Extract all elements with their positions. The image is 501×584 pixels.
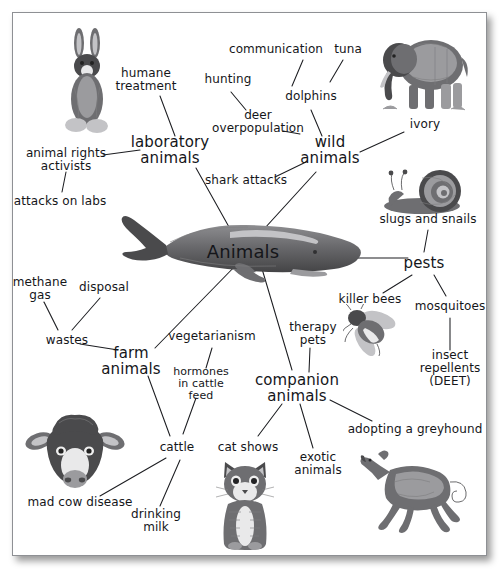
node-communication[interactable]: communication bbox=[229, 43, 323, 56]
edge-11 bbox=[360, 132, 404, 152]
node-therapy-pets[interactable]: therapy pets bbox=[289, 321, 336, 347]
edge-13 bbox=[424, 230, 428, 252]
edge-27 bbox=[309, 348, 310, 372]
node-pests[interactable]: pests bbox=[404, 255, 445, 271]
node-mosquitoes[interactable]: mosquitoes bbox=[415, 300, 486, 313]
node-insect-repellents[interactable]: insect repellents (DEET) bbox=[420, 349, 481, 388]
node-farm-animals[interactable]: farm animals bbox=[101, 345, 160, 377]
rabbit-picture bbox=[56, 27, 118, 141]
node-mad-cow-disease[interactable]: mad cow disease bbox=[27, 496, 132, 509]
edge-28 bbox=[258, 404, 282, 436]
node-adopting-a-greyhound[interactable]: adopting a greyhound bbox=[348, 423, 483, 436]
node-exotic-animals[interactable]: exotic animals bbox=[294, 451, 342, 477]
node-hunting[interactable]: hunting bbox=[205, 73, 252, 86]
node-wild-animals[interactable]: wild animals bbox=[300, 134, 359, 166]
edge-15 bbox=[434, 275, 446, 296]
node-ivory[interactable]: ivory bbox=[410, 118, 440, 131]
greyhound-picture bbox=[360, 448, 470, 534]
node-cat-shows[interactable]: cat shows bbox=[218, 441, 279, 454]
edge-20 bbox=[72, 298, 100, 330]
node-animals[interactable]: Animals bbox=[207, 242, 279, 261]
edge-1 bbox=[160, 96, 175, 136]
node-dolphins[interactable]: dolphins bbox=[285, 90, 337, 103]
node-tuna[interactable]: tuna bbox=[334, 43, 362, 56]
node-companion-animals[interactable]: companion animals bbox=[255, 372, 339, 404]
edge-3 bbox=[62, 172, 66, 192]
node-disposal[interactable]: disposal bbox=[79, 281, 129, 294]
node-laboratory-animals[interactable]: laboratory animals bbox=[131, 134, 210, 166]
node-deer-overpopulation[interactable]: deer overpopulation bbox=[212, 109, 304, 135]
edge-21 bbox=[148, 376, 170, 436]
edge-22 bbox=[183, 398, 196, 434]
concept-map: Animals laboratory animals humane treatm… bbox=[0, 0, 501, 584]
edge-19 bbox=[44, 302, 58, 330]
node-animal-rights-activists[interactable]: animal rights activists bbox=[26, 147, 106, 173]
edge-6 bbox=[292, 60, 303, 86]
kitten-picture bbox=[214, 460, 276, 550]
node-drinking-milk[interactable]: drinking milk bbox=[131, 508, 181, 534]
elephant-picture bbox=[373, 29, 473, 117]
snail-picture bbox=[382, 168, 474, 216]
node-wastes[interactable]: wastes bbox=[46, 334, 88, 347]
node-vegetarianism[interactable]: vegetarianism bbox=[168, 330, 255, 343]
node-cattle[interactable]: cattle bbox=[160, 441, 195, 454]
edge-14 bbox=[383, 275, 412, 293]
bee-picture bbox=[343, 304, 399, 356]
edge-25 bbox=[160, 460, 180, 506]
edge-7 bbox=[330, 60, 343, 82]
cow-picture bbox=[25, 413, 125, 491]
edge-29 bbox=[300, 404, 313, 448]
node-slugs-and-snails[interactable]: slugs and snails bbox=[380, 213, 477, 226]
node-killer-bees[interactable]: killer bees bbox=[339, 293, 402, 306]
node-attacks-on-labs[interactable]: attacks on labs bbox=[14, 195, 107, 208]
node-shark-attacks[interactable]: shark attacks bbox=[205, 174, 287, 187]
node-methane-gas[interactable]: methane gas bbox=[13, 276, 67, 302]
node-humane-treatment[interactable]: humane treatment bbox=[115, 67, 176, 93]
node-hormones-in-cattle-feed[interactable]: hormones in cattle feed bbox=[173, 366, 229, 402]
